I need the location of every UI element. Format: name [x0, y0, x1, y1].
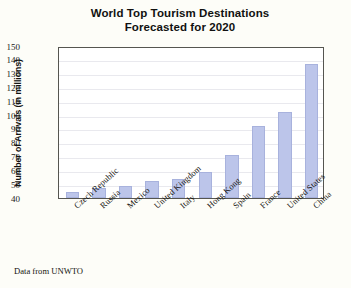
gridline: [59, 103, 323, 104]
y-tick-label: 100: [0, 112, 20, 121]
bar-chart-figure: World Top Tourism Destinations Forecaste…: [0, 0, 351, 288]
y-tick-label: 150: [0, 43, 20, 52]
gridline: [59, 75, 323, 76]
bar: [252, 126, 265, 198]
source-note: Data from UNWTO: [14, 266, 83, 276]
bar: [199, 172, 212, 198]
y-tick-label: 130: [0, 70, 20, 79]
gridline: [59, 89, 323, 90]
chart-title-line-1: World Top Tourism Destinations: [30, 7, 330, 21]
y-tick-label: 80: [0, 139, 20, 148]
gridline: [59, 61, 323, 62]
chart-title: World Top Tourism Destinations Forecaste…: [30, 7, 330, 34]
y-tick-label: 60: [0, 167, 20, 176]
chart-title-line-2: Forecasted for 2020: [30, 21, 330, 35]
bar: [278, 112, 291, 198]
y-tick-label: 70: [0, 153, 20, 162]
y-tick-label: 110: [0, 98, 20, 107]
y-tick-label: 120: [0, 84, 20, 93]
y-tick-label: 140: [0, 56, 20, 65]
y-tick-label: 40: [0, 195, 20, 204]
y-tick-label: 90: [0, 125, 20, 134]
y-tick-label: 50: [0, 181, 20, 190]
